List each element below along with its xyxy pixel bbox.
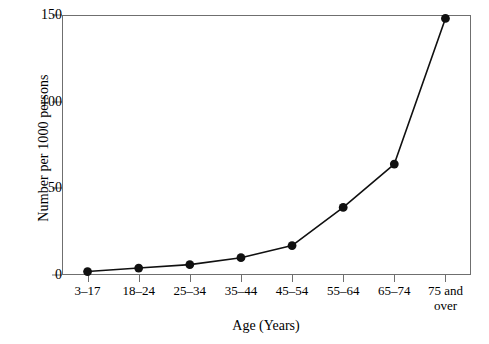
x-tick-mark [241, 275, 242, 282]
x-axis-title: Age (Years) [60, 318, 472, 334]
x-tick-mark [139, 275, 140, 282]
x-tick-mark [343, 275, 344, 282]
x-tick-label: 75 and over [410, 283, 480, 313]
x-tick-mark [88, 275, 89, 282]
line-chart-figure: Number per 1000 persons 050100150 3–1718… [0, 0, 489, 344]
x-tick-mark [292, 275, 293, 282]
x-tick-mark [445, 275, 446, 282]
x-tick-mark [190, 275, 191, 282]
x-axis-ticks: 3–1718–2425–3435–4445–5455–6465–7475 and… [0, 0, 489, 344]
x-tick-mark [394, 275, 395, 282]
